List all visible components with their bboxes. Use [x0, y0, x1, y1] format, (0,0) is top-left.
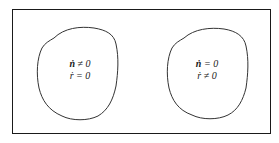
- value: 0: [212, 70, 217, 81]
- left-region-label: ṅ ≠ 0 ṙ = 0: [63, 58, 97, 82]
- n-dot-variable: ṅ: [196, 58, 202, 69]
- right-region-label: ṅ = 0 ṙ ≠ 0: [190, 58, 224, 82]
- left-equation-n: ṅ ≠ 0: [63, 58, 97, 70]
- right-equation-r: ṙ ≠ 0: [190, 70, 224, 82]
- n-dot-variable: ṅ: [69, 58, 75, 69]
- r-dot-variable: ṙ: [70, 70, 74, 81]
- value: 0: [213, 58, 218, 69]
- relation-symbol: ≠: [204, 70, 210, 81]
- value: 0: [85, 70, 90, 81]
- relation-symbol: ≠: [78, 58, 84, 69]
- relation-symbol: =: [204, 58, 211, 69]
- region-outlines: [0, 0, 279, 143]
- right-equation-n: ṅ = 0: [190, 58, 224, 70]
- left-equation-r: ṙ = 0: [63, 70, 97, 82]
- relation-symbol: =: [76, 70, 83, 81]
- value: 0: [86, 58, 91, 69]
- r-dot-variable: ṙ: [197, 70, 201, 81]
